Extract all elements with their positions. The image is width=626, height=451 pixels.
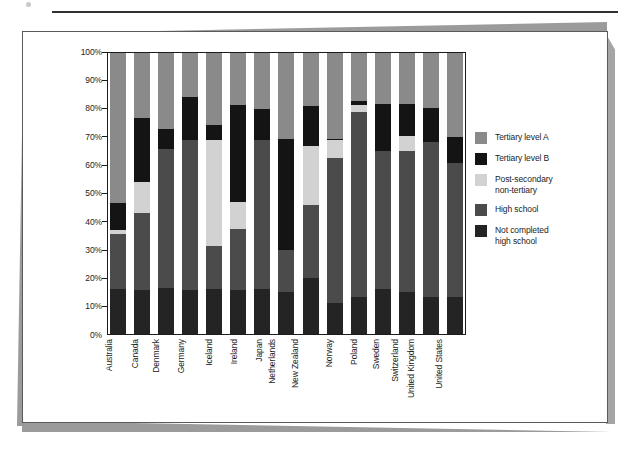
bar-segment bbox=[447, 53, 463, 137]
bar-norway[interactable] bbox=[327, 53, 343, 334]
bar-segment bbox=[110, 53, 126, 203]
legend-item-post-secondary[interactable]: Post-secondary non-tertiary bbox=[475, 174, 607, 195]
bar-segment bbox=[327, 158, 343, 303]
bar-segment bbox=[134, 290, 150, 334]
bar-segment bbox=[447, 163, 463, 298]
bar-segment bbox=[230, 202, 246, 229]
legend-swatch bbox=[475, 204, 487, 216]
legend-swatch bbox=[475, 174, 487, 186]
scan-speck bbox=[26, 2, 31, 7]
legend-swatch bbox=[475, 225, 487, 237]
legend-label: Post-secondary non-tertiary bbox=[495, 174, 553, 195]
bar-segment bbox=[134, 182, 150, 213]
legend-label: Tertiary level B bbox=[495, 153, 549, 164]
bar-segment bbox=[327, 303, 343, 334]
bar-segment bbox=[182, 97, 198, 141]
legend-item-high-school[interactable]: High school bbox=[475, 204, 607, 216]
x-axis-label: Sweden bbox=[372, 339, 381, 369]
x-axis-label-cell: Australia bbox=[109, 337, 125, 423]
x-axis-label: Norway bbox=[325, 339, 334, 367]
figure-card: 0%10%20%30%40%50%60%70%80%90%100% Austra… bbox=[22, 31, 608, 423]
bar-denmark[interactable] bbox=[158, 53, 174, 334]
x-axis-label: United Kingdom bbox=[406, 339, 415, 398]
legend-label: High school bbox=[495, 204, 538, 215]
bar-segment bbox=[206, 53, 222, 125]
bar-segment bbox=[399, 292, 415, 334]
x-axis-label: Iceland bbox=[205, 339, 214, 366]
bar-new-zealand[interactable] bbox=[303, 53, 319, 334]
bar-segment bbox=[134, 213, 150, 290]
y-axis: 0%10%20%30%40%50%60%70%80%90%100% bbox=[23, 52, 107, 335]
bar-united-states[interactable] bbox=[447, 53, 463, 334]
legend-item-tertiary-b[interactable]: Tertiary level B bbox=[475, 153, 607, 165]
bar-segment bbox=[399, 104, 415, 136]
x-axis-label-cell: Ireland bbox=[230, 337, 246, 423]
bar-australia[interactable] bbox=[110, 53, 126, 334]
bar-segment bbox=[182, 140, 198, 290]
bar-canada[interactable] bbox=[134, 53, 150, 334]
bar-segment bbox=[158, 53, 174, 129]
bar-segment bbox=[351, 105, 367, 112]
bar-switzerland[interactable] bbox=[399, 53, 415, 334]
bar-segment bbox=[158, 149, 174, 288]
legend-item-tertiary-a[interactable]: Tertiary level A bbox=[475, 132, 607, 144]
x-axis-labels: AustraliaCanadaDenmarkGermanyIcelandIrel… bbox=[107, 337, 466, 423]
legend-label: Tertiary level A bbox=[495, 132, 549, 143]
x-axis-label-cell: Denmark bbox=[157, 337, 173, 423]
legend-label: Not completed high school bbox=[495, 225, 549, 246]
bar-united-kingdom[interactable] bbox=[423, 53, 439, 334]
x-axis-label: Canada bbox=[131, 339, 140, 368]
bar-segment bbox=[278, 292, 294, 334]
bar-segment bbox=[278, 53, 294, 139]
bar-poland[interactable] bbox=[351, 53, 367, 334]
top-horizontal-rule bbox=[52, 11, 618, 13]
x-axis-label-cell: Norway bbox=[327, 337, 343, 423]
bar-segment bbox=[134, 53, 150, 118]
bar-segment bbox=[206, 125, 222, 140]
bar-segment bbox=[375, 104, 391, 152]
bar-segment bbox=[230, 105, 246, 202]
bar-segment bbox=[206, 140, 222, 245]
bar-segment bbox=[278, 139, 294, 250]
bar-segment bbox=[303, 53, 319, 106]
bar-segment bbox=[375, 53, 391, 104]
bar-germany[interactable] bbox=[182, 53, 198, 334]
bar-segment bbox=[206, 289, 222, 334]
legend-item-not-completed[interactable]: Not completed high school bbox=[475, 225, 607, 246]
x-axis-label: Germany bbox=[177, 339, 186, 373]
bar-sweden[interactable] bbox=[375, 53, 391, 334]
bar-segment bbox=[278, 250, 294, 292]
bar-segment bbox=[399, 136, 415, 151]
bar-segment bbox=[423, 297, 439, 334]
chart-legend: Tertiary level ATertiary level BPost-sec… bbox=[475, 132, 607, 255]
bar-segment bbox=[134, 118, 150, 183]
bar-iceland[interactable] bbox=[206, 53, 222, 334]
bar-segment bbox=[423, 53, 439, 108]
bar-segment bbox=[182, 53, 198, 97]
bar-segment bbox=[303, 106, 319, 145]
bar-segment bbox=[254, 140, 270, 289]
x-axis-label-cell: Poland bbox=[351, 337, 367, 423]
bar-segment bbox=[447, 297, 463, 334]
x-axis-label: Poland bbox=[350, 339, 359, 365]
x-axis-label-cell: United States bbox=[448, 337, 464, 423]
bar-segment bbox=[230, 53, 246, 105]
x-axis-label: Australia bbox=[105, 339, 114, 371]
bar-segment bbox=[230, 229, 246, 291]
bar-netherlands[interactable] bbox=[278, 53, 294, 334]
bar-segment bbox=[399, 53, 415, 104]
bar-segment bbox=[351, 53, 367, 101]
bar-segment bbox=[110, 289, 126, 334]
bar-japan[interactable] bbox=[254, 53, 270, 334]
bar-segment bbox=[375, 151, 391, 289]
bar-ireland[interactable] bbox=[230, 53, 246, 334]
x-axis-label: Switzerland bbox=[390, 339, 399, 382]
x-axis-label: Japan bbox=[255, 339, 264, 362]
bar-segment bbox=[375, 289, 391, 334]
bar-segment bbox=[110, 203, 126, 230]
bar-segment bbox=[254, 289, 270, 334]
scanned-page: 0%10%20%30%40%50%60%70%80%90%100% Austra… bbox=[0, 0, 626, 451]
bar-segment bbox=[399, 151, 415, 292]
bar-group bbox=[108, 53, 465, 334]
bar-segment bbox=[447, 137, 463, 162]
